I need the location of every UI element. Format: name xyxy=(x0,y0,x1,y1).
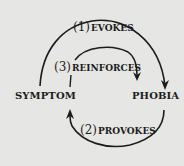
edge-text-reinforces: REINFORCES xyxy=(72,63,141,73)
node-symptom: SYMPTOM xyxy=(15,91,76,101)
edge-text-evokes: EVOKES xyxy=(91,23,134,33)
edge-number-3: (3) xyxy=(54,60,71,74)
edge-label-evokes: (1)EVOKES xyxy=(73,21,134,33)
edge-label-reinforces: (3)REINFORCES xyxy=(54,61,141,73)
edge-number-2: (2) xyxy=(80,123,97,137)
reinforces-arrow xyxy=(70,75,71,87)
edge-label-provokes: (2)PROVOKES xyxy=(80,124,156,136)
diagram-canvas: SYMPTOM PHOBIA (1)EVOKES (3)REINFORCES (… xyxy=(0,0,184,166)
node-phobia: PHOBIA xyxy=(132,91,179,101)
edge-number-1: (1) xyxy=(73,20,90,34)
edge-text-provokes: PROVOKES xyxy=(98,126,156,136)
